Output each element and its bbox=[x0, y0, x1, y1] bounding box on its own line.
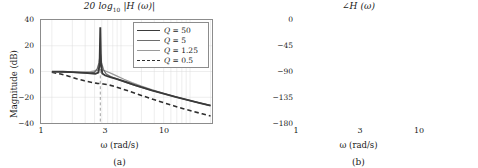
phase-title-text: ∠H (ω) bbox=[342, 1, 375, 11]
phase-xtick-3: 3 bbox=[350, 126, 370, 135]
phase-xtick-1: 1 bbox=[286, 126, 306, 135]
magnitude-ytick-0: 0 bbox=[8, 67, 34, 76]
legend-item-q50: Q = 50 bbox=[137, 25, 204, 35]
phase-x-axis-label: ω (rad/s) bbox=[239, 140, 478, 150]
bode-figure: 20 log10 |H (ω)| Magnitude (dB) 40 20 0 … bbox=[0, 0, 478, 168]
magnitude-title-prefix: 20 log bbox=[84, 1, 113, 11]
magnitude-x-axis-label: ω (rad/s) bbox=[0, 140, 239, 150]
legend-item-q5: Q = 5 bbox=[137, 35, 204, 45]
magnitude-panel: 20 log10 |H (ω)| Magnitude (dB) 40 20 0 … bbox=[0, 0, 239, 168]
magnitude-ytick-neg20: −20 bbox=[8, 93, 34, 102]
magnitude-title-rest: |H (ω)| bbox=[123, 1, 155, 11]
magnitude-xtick-1: 1 bbox=[31, 126, 51, 135]
phase-ytick-0: 0 bbox=[267, 15, 293, 24]
magnitude-curve-q0p5 bbox=[52, 72, 211, 116]
phase-panel: ∠H (ω) Phase (deg) 0 −45 −90 −135 −180 1… bbox=[239, 0, 478, 168]
legend-label-q5: Q = 5 bbox=[164, 36, 186, 45]
legend-label-q50: Q = 50 bbox=[164, 26, 191, 35]
magnitude-y-axis-label: Magnitude (dB) bbox=[9, 50, 19, 118]
legend-item-q0p5: Q = 0.5 bbox=[137, 55, 204, 65]
magnitude-ytick-40: 40 bbox=[8, 15, 34, 24]
phase-plot-title: ∠H (ω) bbox=[239, 1, 478, 11]
magnitude-xtick-10: 10 bbox=[154, 126, 174, 135]
magnitude-legend: Q = 50 Q = 5 Q = 1.25 Q = 0.5 bbox=[133, 22, 209, 68]
magnitude-title-subscript: 10 bbox=[113, 7, 121, 13]
legend-label-q1p25: Q = 1.25 bbox=[164, 46, 198, 55]
magnitude-plot-title: 20 log10 |H (ω)| bbox=[0, 1, 239, 13]
phase-xtick-10: 10 bbox=[409, 126, 429, 135]
phase-ytick-neg90: −90 bbox=[267, 67, 293, 76]
magnitude-ytick-20: 20 bbox=[8, 41, 34, 50]
magnitude-xtick-3: 3 bbox=[95, 126, 115, 135]
magnitude-caption: (a) bbox=[0, 157, 239, 167]
legend-label-q0p5: Q = 0.5 bbox=[164, 56, 193, 65]
legend-item-q1p25: Q = 1.25 bbox=[137, 45, 204, 55]
phase-caption: (b) bbox=[239, 157, 478, 167]
phase-ytick-neg45: −45 bbox=[267, 41, 293, 50]
phase-ytick-neg135: −135 bbox=[267, 93, 293, 102]
